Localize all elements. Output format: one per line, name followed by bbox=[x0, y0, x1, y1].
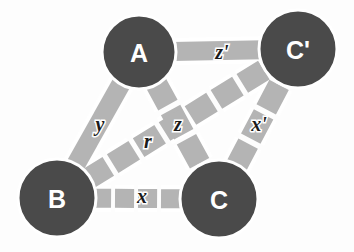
graph-diagram: AC'BC z'z'yyzzrrxxx'x' bbox=[0, 0, 354, 252]
edge-label-x: x bbox=[136, 185, 147, 207]
node-label-A: A bbox=[130, 39, 148, 67]
edge-label-x-prime: x' bbox=[250, 113, 267, 135]
edge-label-z: z bbox=[173, 113, 182, 135]
edge-label-y: y bbox=[94, 113, 105, 136]
node-label-B: B bbox=[48, 185, 66, 213]
node-label-Cp: C' bbox=[286, 36, 310, 64]
edge-label-z-prime: z' bbox=[214, 41, 229, 63]
diagram-canvas: AC'BC z'z'yyzzrrxxx'x' bbox=[0, 0, 354, 252]
node-label-C: C bbox=[210, 186, 228, 214]
edge-label-r: r bbox=[144, 130, 152, 152]
